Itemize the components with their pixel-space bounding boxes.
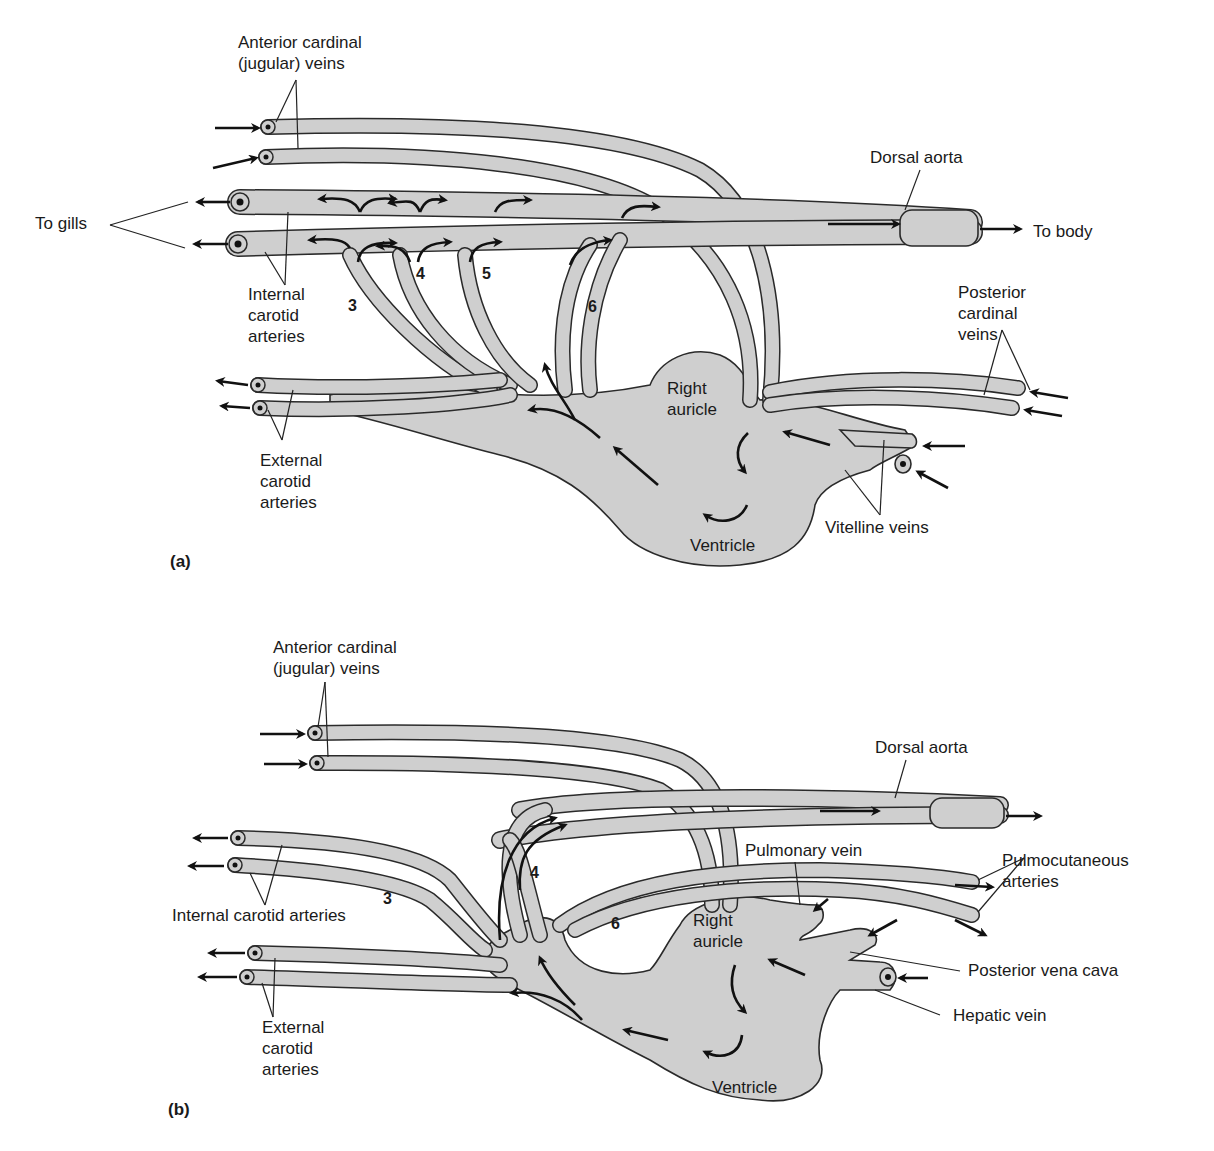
label-internal-carotid-b: Internal carotid arteries bbox=[172, 905, 346, 926]
label-right-auricle-a: Right auricle bbox=[667, 378, 717, 420]
arch-number-4-a: 4 bbox=[416, 265, 425, 283]
circulation-figure: Anterior cardinal (jugular) veins Dorsal… bbox=[0, 0, 1214, 1151]
arch-number-4-b: 4 bbox=[530, 864, 539, 882]
label-external-carotid-b: External carotid arteries bbox=[262, 1017, 324, 1080]
label-pulmocutaneous: Pulmocutaneous arteries bbox=[1002, 850, 1129, 892]
label-posterior-vena-cava: Posterior vena cava bbox=[968, 960, 1118, 981]
label-ventricle-a: Ventricle bbox=[690, 535, 755, 556]
arch-number-3-b: 3 bbox=[383, 890, 392, 908]
label-posterior-cardinal: Posterior cardinal veins bbox=[958, 282, 1026, 345]
panel-tag-b: (b) bbox=[168, 1100, 190, 1120]
label-anterior-cardinal-b: Anterior cardinal (jugular) veins bbox=[273, 637, 397, 679]
label-dorsal-aorta-a: Dorsal aorta bbox=[870, 147, 963, 168]
arch-number-6-a: 6 bbox=[588, 298, 597, 316]
arch-number-3-a: 3 bbox=[348, 297, 357, 315]
label-dorsal-aorta-b: Dorsal aorta bbox=[875, 737, 968, 758]
arch-number-5-a: 5 bbox=[482, 265, 491, 283]
label-pulmonary-vein: Pulmonary vein bbox=[745, 840, 862, 861]
label-to-gills: To gills bbox=[35, 213, 87, 234]
label-hepatic-vein: Hepatic vein bbox=[953, 1005, 1047, 1026]
panel-tag-a: (a) bbox=[170, 552, 191, 572]
label-internal-carotid-a: Internal carotid arteries bbox=[248, 284, 305, 347]
arch-number-6-b: 6 bbox=[611, 915, 620, 933]
label-external-carotid-a: External carotid arteries bbox=[260, 450, 322, 513]
label-to-body: To body bbox=[1033, 221, 1093, 242]
label-right-auricle-b: Right auricle bbox=[693, 910, 743, 952]
label-vitelline-veins: Vitelline veins bbox=[825, 517, 929, 538]
label-ventricle-b: Ventricle bbox=[712, 1077, 777, 1098]
label-anterior-cardinal-a: Anterior cardinal (jugular) veins bbox=[238, 32, 362, 74]
